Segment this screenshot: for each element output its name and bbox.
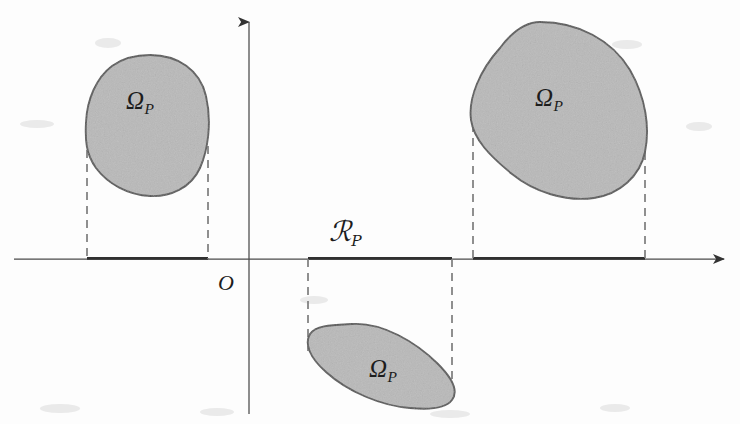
projection-diagram: ΩP ΩP ΩP ℛP O <box>0 0 740 424</box>
region-bottom-label: ΩP <box>369 356 397 381</box>
region-right-label: ΩP <box>535 85 563 110</box>
region-left-label: ΩP <box>126 88 154 113</box>
projection-interval-label: ℛP <box>329 218 361 246</box>
origin-label: O <box>218 272 234 294</box>
region-left-shape <box>86 55 209 196</box>
regions-group <box>86 22 647 409</box>
